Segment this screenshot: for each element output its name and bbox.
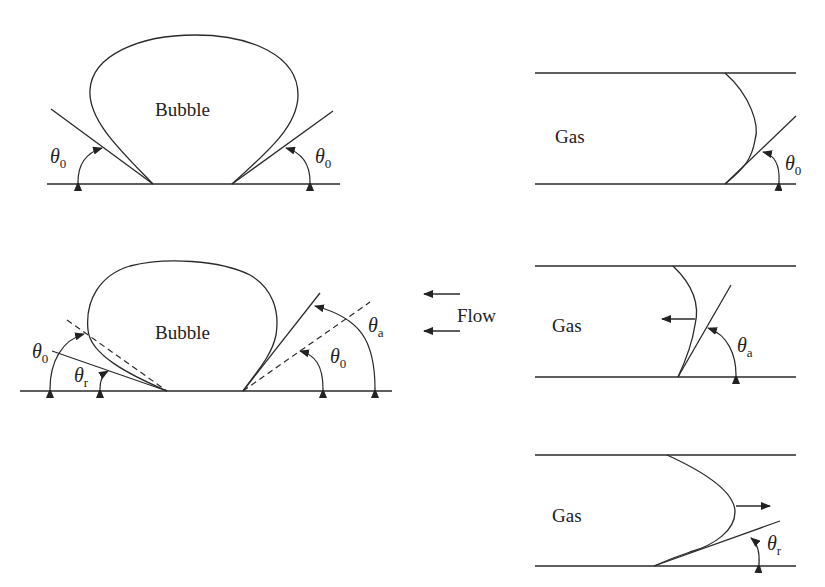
angle-label-thetaa: θa bbox=[737, 334, 753, 360]
tangent-line-right bbox=[243, 293, 320, 391]
meniscus bbox=[673, 266, 697, 377]
angle-label-thetar: θr bbox=[74, 364, 89, 390]
angle-arc-theta0-right bbox=[300, 351, 323, 389]
angle-label-theta0-right: θ0 bbox=[315, 145, 331, 171]
meniscus bbox=[725, 73, 756, 184]
angle-arc-thetaa bbox=[315, 306, 375, 389]
angle-label-theta0: θ0 bbox=[785, 152, 801, 178]
contact-angle-diagram: Bubble θ0 θ0 Gas θ0 Bubble θ0 θr θa θ0 F… bbox=[0, 0, 825, 587]
gas-label: Gas bbox=[555, 126, 585, 147]
angle-label-theta0-right: θ0 bbox=[330, 345, 346, 371]
equilibrium-line-right bbox=[243, 302, 370, 391]
meniscus bbox=[654, 455, 735, 566]
angle-label-thetaa: θa bbox=[368, 314, 384, 340]
angle-arc bbox=[763, 152, 779, 182]
panel-gas-advancing: Gas θa bbox=[535, 266, 796, 377]
panel-bubble-static: Bubble θ0 θ0 bbox=[47, 35, 340, 184]
gas-label: Gas bbox=[552, 505, 582, 526]
flow-indicator: Flow bbox=[424, 294, 496, 331]
angle-arc-thetar bbox=[100, 371, 108, 389]
angle-arc-left bbox=[78, 148, 102, 182]
flow-label: Flow bbox=[457, 305, 496, 326]
panel-bubble-flow: Bubble θ0 θr θa θ0 bbox=[20, 261, 392, 391]
gas-label: Gas bbox=[552, 315, 582, 336]
tangent-line bbox=[654, 521, 780, 566]
angle-arc bbox=[751, 538, 759, 564]
angle-label-theta0-left: θ0 bbox=[32, 340, 48, 366]
tangent-line-left bbox=[51, 109, 153, 184]
angle-arc bbox=[708, 328, 736, 375]
bubble-label: Bubble bbox=[155, 322, 210, 343]
bubble-label: Bubble bbox=[155, 99, 210, 120]
angle-arc-right bbox=[286, 148, 310, 182]
angle-label-theta0-left: θ0 bbox=[50, 145, 66, 171]
tangent-line-left bbox=[52, 351, 167, 391]
angle-label-thetar: θr bbox=[767, 532, 782, 558]
panel-gas-receding: Gas θr bbox=[535, 455, 796, 566]
panel-gas-static: Gas θ0 bbox=[535, 73, 801, 184]
tangent-line bbox=[678, 285, 731, 377]
